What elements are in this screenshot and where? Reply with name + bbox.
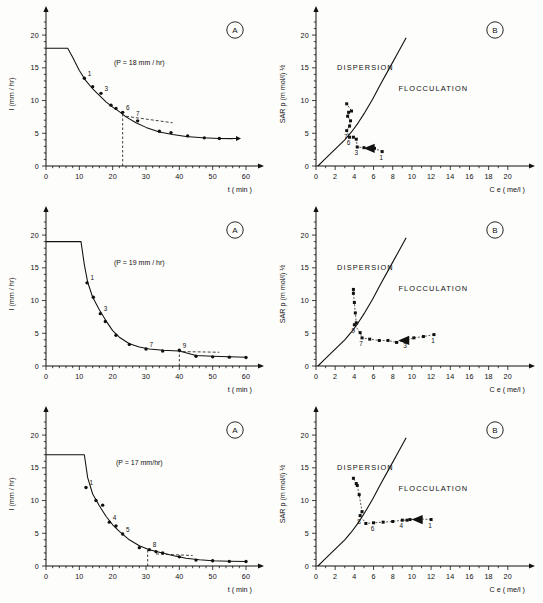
x-tick-label: 18 — [484, 172, 492, 181]
data-point — [354, 311, 357, 314]
data-point — [355, 482, 358, 485]
panel-badge-a: A — [227, 422, 243, 438]
data-point-label: 3 — [104, 305, 108, 312]
infiltration-curve — [46, 455, 246, 562]
data-point-label: 3 — [104, 85, 108, 92]
data-point-label: 1 — [90, 274, 94, 281]
x-tick-label: 6 — [371, 172, 375, 181]
x-tick-label: 50 — [208, 572, 216, 581]
y-tick-label: 0 — [35, 362, 39, 371]
data-point-label: 6 — [126, 104, 130, 111]
data-point-label: 6 — [371, 525, 375, 532]
data-point — [218, 137, 221, 140]
data-point — [161, 551, 164, 554]
x-tick-label: 8 — [391, 372, 395, 381]
svg-text:A: A — [232, 226, 238, 235]
data-point — [84, 486, 87, 489]
x-tick-label: 16 — [465, 172, 473, 181]
y-tick-label: 5 — [305, 129, 309, 138]
x-axis-arrow — [258, 563, 264, 568]
y-tick-label: 0 — [305, 162, 309, 171]
data-point-label: 1 — [428, 522, 432, 529]
data-point — [353, 301, 356, 304]
x-tick-label: 10 — [408, 372, 416, 381]
svg-text:A: A — [232, 426, 238, 435]
x-tick-label: 14 — [446, 172, 454, 181]
data-point — [211, 355, 214, 358]
x-tick-label: 60 — [242, 372, 250, 381]
y-axis-title: I (mm / hr) — [7, 477, 16, 510]
x-tick-label: 12 — [427, 372, 435, 381]
svg-text:A: A — [232, 26, 238, 35]
x-tick-label: 20 — [504, 572, 512, 581]
data-point — [348, 125, 351, 128]
data-point — [382, 521, 385, 524]
x-tick-label: 30 — [142, 372, 150, 381]
direction-arrow-marker — [364, 144, 375, 153]
panel-b: 0510152002468101214161820C e ( me/l )SAR… — [272, 0, 543, 200]
y-axis-title: SAR p (m mol/l) ½ — [278, 65, 287, 124]
data-point — [352, 292, 355, 295]
x-tick-label: 8 — [391, 572, 395, 581]
x-tick-label: 16 — [465, 372, 473, 381]
x-tick-label: 30 — [142, 172, 150, 181]
rainfall-rate-annotation: (P = 19 mm / hr) — [114, 259, 165, 267]
data-point — [194, 558, 197, 561]
y-axis-arrow — [43, 206, 48, 212]
data-point — [244, 560, 247, 563]
y-tick-label: 10 — [301, 296, 309, 305]
data-point — [395, 341, 398, 344]
panel-a: 051015200102030405060t ( min )I (mm / hr… — [0, 400, 272, 600]
y-tick-label: 5 — [305, 329, 309, 338]
y-axis-title: I (mm / hr) — [7, 77, 16, 110]
x-tick-label: 12 — [427, 572, 435, 581]
y-axis-arrow — [43, 6, 48, 12]
data-point — [101, 503, 104, 506]
x-tick-label: 60 — [242, 572, 250, 581]
x-tick-label: 60 — [242, 172, 250, 181]
data-point — [364, 522, 367, 525]
y-tick-label: 20 — [301, 431, 309, 440]
data-point-label: 7 — [136, 110, 140, 117]
y-tick-label: 5 — [35, 129, 39, 138]
y-tick-label: 15 — [31, 63, 39, 72]
data-point — [347, 111, 350, 114]
data-point — [92, 296, 95, 299]
tangent-dashed-line — [183, 352, 220, 353]
data-point-label: 1 — [379, 154, 383, 161]
y-tick-label: 10 — [301, 496, 309, 505]
x-tick-label: 20 — [108, 372, 116, 381]
y-tick-label: 15 — [301, 463, 309, 472]
x-tick-label: 50 — [208, 372, 216, 381]
x-axis-arrow — [258, 163, 264, 168]
data-point-label: 9 — [183, 342, 187, 349]
panel-badge-a: A — [227, 22, 243, 38]
sar-concentration-chart: 0510152002468101214161820C e ( me/l )SAR… — [272, 0, 543, 200]
rainfall-rate-annotation: (P = 18 mm / hr) — [114, 59, 165, 67]
data-point — [83, 77, 86, 80]
flocculation-region-label: FLOCCULATION — [398, 484, 468, 493]
x-tick-label: 0 — [44, 172, 48, 181]
data-point — [109, 103, 112, 106]
sample-trajectory-path — [353, 289, 434, 342]
data-point — [104, 320, 107, 323]
x-axis-arrow — [258, 363, 264, 368]
x-tick-label: 0 — [314, 572, 318, 581]
data-point — [352, 136, 355, 139]
y-tick-label: 20 — [31, 231, 39, 240]
data-point — [136, 119, 139, 122]
x-tick-label: 20 — [504, 172, 512, 181]
data-point — [128, 343, 131, 346]
x-axis-title: t ( min ) — [228, 185, 252, 194]
x-axis-title: t ( min ) — [228, 385, 252, 394]
data-point — [355, 321, 358, 324]
data-point — [352, 288, 355, 291]
data-point — [194, 354, 197, 357]
x-tick-label: 6 — [371, 372, 375, 381]
data-point-label: 9 — [352, 327, 356, 334]
y-tick-label: 10 — [31, 496, 39, 505]
data-point — [161, 349, 164, 352]
panel-a: 051015200102030405060t ( min )I (mm / hr… — [0, 200, 272, 400]
data-point — [94, 499, 97, 502]
x-tick-label: 20 — [504, 372, 512, 381]
